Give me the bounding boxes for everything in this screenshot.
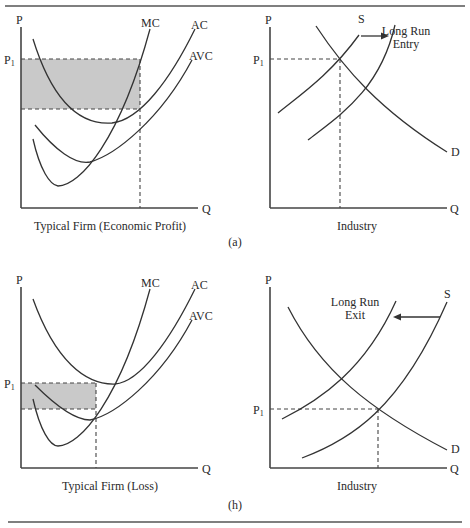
y-axis-label: P [265, 273, 272, 287]
y-axis-label: P [16, 13, 23, 27]
price-label: P1 [253, 403, 264, 418]
panel-a-firm-graph: P Q P1 MC AC AVC Typical Firm (Economic … [4, 13, 213, 233]
supply-label: S [358, 12, 365, 26]
ac-label: AC [191, 278, 208, 292]
y-axis-label: P [265, 13, 272, 27]
arrow-left-icon [393, 314, 401, 321]
x-axis-label: Q [450, 202, 459, 216]
industry-caption: Industry [337, 479, 377, 493]
panel-b-firm-graph: P Q P1 MC AC AVC Typical Firm (Loss) [4, 273, 213, 493]
supply-label: S [444, 287, 451, 301]
long-run-exit-label-line2: Exit [345, 308, 366, 322]
firm-caption: Typical Firm (Economic Profit) [34, 219, 186, 233]
x-axis-label: Q [202, 462, 211, 476]
price-label: P1 [253, 53, 264, 68]
long-run-exit-label-line1: Long Run [331, 295, 379, 309]
panel-a-label: (a) [228, 235, 241, 249]
mc-label: MC [141, 276, 160, 290]
profit-shaded-area [21, 59, 140, 109]
panel-a-industry-graph: P Q P1 S D Long Run Entry Industry [253, 12, 460, 233]
y-axis-label: P [16, 273, 23, 287]
supply-curve [302, 302, 447, 458]
figure-canvas: P Q P1 MC AC AVC Typical Firm (Economic … [0, 0, 470, 528]
ac-curve [33, 289, 195, 384]
industry-caption: Industry [337, 219, 377, 233]
price-label: P1 [4, 53, 15, 68]
avc-label: AVC [189, 309, 213, 323]
supply-curve-shifted [308, 25, 395, 140]
demand-curve [288, 307, 447, 450]
supply-curve [278, 35, 359, 113]
x-axis-label: Q [202, 202, 211, 216]
x-axis-label: Q [450, 462, 459, 476]
long-run-entry-label-line2: Entry [393, 37, 420, 51]
demand-label: D [451, 442, 460, 456]
long-run-entry-label-line1: Long Run [382, 24, 430, 38]
mc-label: MC [141, 16, 160, 30]
avc-label: AVC [189, 49, 213, 63]
demand-label: D [451, 145, 460, 159]
mc-curve [33, 289, 150, 446]
supply-curve-shifted [282, 301, 396, 419]
panel-b-industry-graph: P Q P1 S D Long Run Exit Industry [253, 273, 460, 493]
demand-curve [316, 26, 447, 152]
ac-label: AC [191, 18, 208, 32]
price-label: P1 [4, 377, 15, 392]
firm-caption: Typical Firm (Loss) [62, 479, 158, 493]
panel-b-label: (h) [228, 498, 242, 512]
